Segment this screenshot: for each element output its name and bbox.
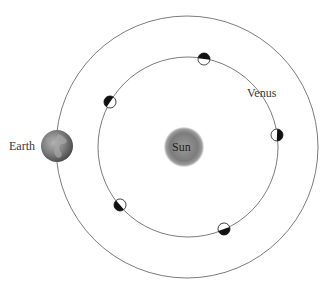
venus-phase-upper-left [102, 94, 119, 111]
orbit-diagram [0, 0, 327, 293]
venus-phase-right [271, 129, 283, 141]
earth-globe [41, 130, 73, 162]
venus-label: Venus [247, 87, 276, 99]
earth-label: Earth [9, 140, 35, 152]
venus-phase-top [197, 52, 211, 66]
venus-phase-lower-left [112, 197, 129, 214]
venus-phase-lower-right [216, 221, 231, 236]
sun-label: Sun [172, 141, 191, 153]
